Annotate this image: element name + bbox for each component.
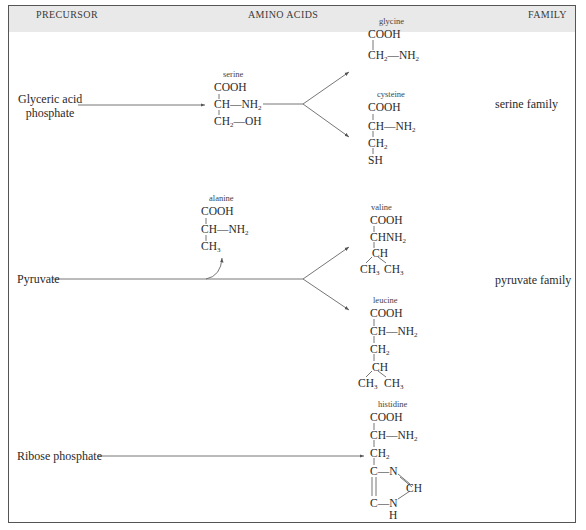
subscript: 3: [374, 383, 378, 391]
leucine-ch-nh2: CH—NH2: [370, 325, 418, 342]
alanine-name: alanine: [209, 193, 234, 203]
leucine-ch-nh: CH—NH: [370, 325, 414, 337]
valine-cooh: COOH: [370, 214, 403, 227]
serine-cooh: COOH: [214, 81, 247, 94]
subscript: 3: [400, 269, 404, 277]
subscript: 2: [414, 331, 418, 339]
subscript: 3: [376, 269, 380, 277]
cysteine-ch: CH: [368, 137, 384, 149]
glycine-name: glycine: [379, 16, 404, 26]
valine-ch: CH: [372, 247, 388, 260]
leucine-ch3-left: CH3: [358, 377, 377, 394]
serine-ch2-oh: CH2—OH: [214, 115, 262, 132]
subscript: 2: [258, 104, 262, 112]
valine-chnh: CHNH: [370, 231, 403, 243]
alanine-ch3: CH3: [201, 240, 220, 257]
valine-ch3-left: CH3: [360, 263, 379, 280]
serine-name: serine: [223, 69, 243, 79]
serine-ch-nh2: CH—NH2: [214, 98, 262, 115]
glycine-nh: —NH: [387, 49, 415, 61]
subscript: 2: [384, 143, 388, 151]
subscript: 2: [403, 237, 407, 245]
cysteine-name: cysteine: [377, 89, 405, 99]
histidine-ch-2: CH: [370, 447, 386, 459]
family-pyruvate: pyruvate family: [495, 273, 571, 287]
histidine-cooh: COOH: [370, 411, 403, 424]
precursor-pyruvate: Pyruvate: [17, 272, 60, 286]
subscript: 3: [217, 246, 221, 254]
alanine-ch-nh2: CH—NH2: [201, 223, 249, 240]
histidine-name: histidine: [378, 399, 407, 409]
cysteine-sh: SH: [368, 154, 383, 167]
histidine-ch2: CH2: [370, 447, 389, 464]
precursor-label-line2: phosphate: [18, 106, 82, 120]
precursor-glyceric-acid-phosphate: Glyceric acid phosphate: [18, 92, 82, 120]
histidine-ch-nh: CH—NH: [370, 429, 414, 441]
subscript: 2: [412, 126, 416, 134]
histidine-c-n-top: C—N: [370, 465, 397, 478]
subscript: 2: [386, 349, 390, 357]
serine-ch-nh: CH—NH: [214, 98, 258, 110]
serine-oh: —OH: [233, 115, 261, 127]
family-serine: serine family: [495, 97, 558, 111]
valine-name: valine: [371, 202, 392, 212]
histidine-ring-ch: CH: [406, 482, 422, 495]
precursor-label-line1: Glyceric acid: [18, 92, 82, 106]
glycine-ch: CH: [368, 49, 384, 61]
leucine-ch3-right: CH3: [384, 377, 403, 394]
leucine-ch-left: CH: [358, 377, 374, 389]
cysteine-cooh: COOH: [368, 101, 401, 114]
leucine-ch-2: CH: [370, 343, 386, 355]
valine-chnh2: CHNH2: [370, 231, 406, 248]
alanine-ch: CH: [201, 240, 217, 252]
histidine-ch-nh2: CH—NH2: [370, 429, 418, 446]
histidine-ring-h: H: [389, 509, 397, 522]
leucine-name: leucine: [373, 295, 398, 305]
cysteine-ch-nh: CH—NH: [368, 120, 412, 132]
subscript: 3: [400, 383, 404, 391]
leucine-cooh: COOH: [370, 307, 403, 320]
leucine-ch: CH: [372, 361, 388, 374]
subscript: 2: [414, 435, 418, 443]
subscript: 2: [245, 229, 249, 237]
leucine-ch-right: CH: [384, 377, 400, 389]
leucine-ch2: CH2: [370, 343, 389, 360]
subscript: 2: [416, 55, 420, 63]
valine-ch-right: CH: [384, 263, 400, 275]
serine-ch: CH: [214, 115, 230, 127]
valine-ch3-right: CH3: [384, 263, 403, 280]
precursor-ribose-phosphate: Ribose phosphate: [17, 449, 102, 463]
glycine-ch2-nh2: CH2—NH2: [368, 49, 419, 66]
cysteine-ch2: CH2: [368, 137, 387, 154]
subscript: 2: [386, 453, 390, 461]
alanine-ch-nh: CH—NH: [201, 223, 245, 235]
valine-ch-left: CH: [360, 263, 376, 275]
cysteine-ch-nh2: CH—NH2: [368, 120, 416, 137]
glycine-cooh: COOH: [368, 28, 401, 41]
alanine-cooh: COOH: [201, 205, 234, 218]
